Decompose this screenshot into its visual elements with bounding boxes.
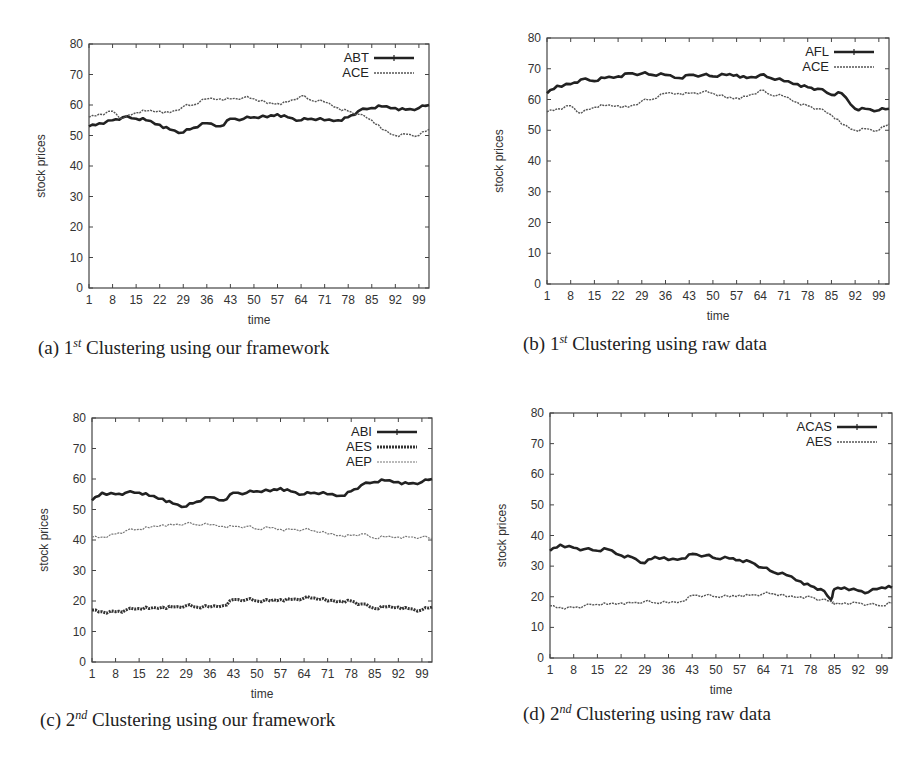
x-tick-label: 22 bbox=[614, 663, 628, 677]
y-tick-label: 20 bbox=[531, 590, 545, 604]
x-tick-label: 99 bbox=[875, 663, 889, 677]
x-tick-label: 1 bbox=[547, 663, 554, 677]
legend-label-acas: ACAS bbox=[797, 419, 833, 434]
x-tick-label: 85 bbox=[828, 663, 842, 677]
caption-d: (d) 2nd Clustering using raw data bbox=[523, 702, 771, 725]
y-tick-label: 30 bbox=[531, 559, 545, 573]
series-line-aes bbox=[550, 592, 892, 609]
y-tick-label: 0 bbox=[537, 651, 544, 665]
x-tick-label: 57 bbox=[733, 663, 747, 677]
x-tick-label: 15 bbox=[591, 663, 605, 677]
series-line-acas bbox=[550, 545, 892, 600]
legend-label-aes: AES bbox=[806, 434, 832, 449]
caption-d-prefix: (d) 2 bbox=[523, 703, 559, 724]
x-axis-title: time bbox=[710, 683, 733, 697]
chart-d: 0102030405060708018152229364350576471788… bbox=[0, 0, 924, 775]
x-tick-label: 78 bbox=[804, 663, 818, 677]
y-tick-label: 70 bbox=[531, 437, 545, 451]
x-tick-label: 36 bbox=[662, 663, 676, 677]
x-tick-label: 50 bbox=[709, 663, 723, 677]
y-tick-label: 80 bbox=[531, 406, 545, 420]
y-tick-label: 40 bbox=[531, 529, 545, 543]
caption-d-text: Clustering using raw data bbox=[571, 703, 770, 724]
caption-d-sup: nd bbox=[559, 702, 571, 716]
y-axis-title: stock prices bbox=[495, 504, 509, 567]
x-tick-label: 43 bbox=[686, 663, 700, 677]
x-tick-label: 64 bbox=[757, 663, 771, 677]
panel-d: 0102030405060708018152229364350576471788… bbox=[0, 0, 924, 775]
x-tick-label: 8 bbox=[570, 663, 577, 677]
y-tick-label: 50 bbox=[531, 498, 545, 512]
x-tick-label: 92 bbox=[851, 663, 865, 677]
x-tick-label: 29 bbox=[638, 663, 652, 677]
y-tick-label: 60 bbox=[531, 467, 545, 481]
x-tick-label: 71 bbox=[780, 663, 794, 677]
y-tick-label: 10 bbox=[531, 620, 545, 634]
plot-frame bbox=[550, 413, 892, 658]
